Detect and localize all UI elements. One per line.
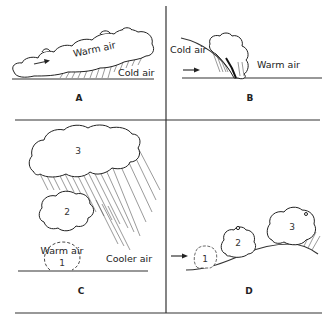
- label-cooler-air: Cooler air: [106, 253, 152, 264]
- panel-label-d: D: [245, 286, 252, 296]
- arrow-head-icon: [194, 68, 200, 73]
- panel-b: Cold air Warm air B: [170, 33, 322, 103]
- diagram-canvas: Warm air Cold air A Cold air Warm air B: [0, 0, 330, 320]
- label-warm-air: Warm air: [41, 245, 84, 256]
- stage-1-label: 1: [202, 254, 208, 264]
- panel-label-b: B: [247, 93, 254, 103]
- stage-3-label: 3: [75, 146, 81, 156]
- panel-d: 1 2 3 D: [171, 207, 320, 296]
- panel-label-c: C: [78, 286, 85, 296]
- panel-a: Warm air Cold air A: [12, 28, 155, 103]
- label-warm-air: Warm air: [257, 59, 300, 70]
- cloud-stage-3: [29, 125, 140, 177]
- stage-3-label: 3: [289, 222, 295, 232]
- arrow-head-icon: [182, 254, 188, 259]
- label-cold-air: Cold air: [170, 44, 207, 55]
- cold-front-cloud: [209, 33, 248, 79]
- stage-2-label: 2: [235, 238, 241, 248]
- label-cold-air: Cold air: [118, 67, 155, 78]
- stage-1-label: 1: [59, 258, 65, 268]
- stage-2-label: 2: [64, 207, 70, 217]
- panel-label-a: A: [76, 93, 83, 103]
- panel-c: 3 2 Warm air 1 Cooler air C: [18, 125, 160, 296]
